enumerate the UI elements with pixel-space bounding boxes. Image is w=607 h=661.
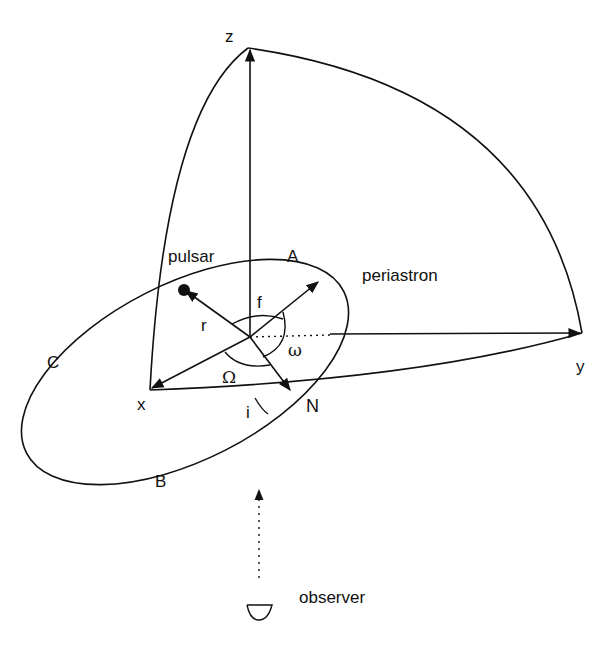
orbit-diagram: z y x pulsar A periastron C B N r f ω Ω … <box>0 0 607 661</box>
big-omega-label: Ω <box>222 367 236 387</box>
observer-label: observer <box>299 588 365 607</box>
orbit-diagram-svg: z y x pulsar A periastron C B N r f ω Ω … <box>0 0 607 661</box>
z-label: z <box>225 27 234 46</box>
pulsar-label: pulsar <box>168 247 215 266</box>
x-label: x <box>137 395 146 414</box>
angle-f-arc <box>232 315 283 324</box>
pulsar-dot <box>178 284 190 296</box>
arc-x-y <box>150 333 582 390</box>
point-b-label: B <box>155 472 166 491</box>
y-axis-dotted <box>250 335 330 337</box>
periastron-label: periastron <box>362 266 438 285</box>
radius-label: r <box>201 316 207 335</box>
y-axis <box>330 333 580 334</box>
point-a-label: A <box>287 247 299 266</box>
y-label: y <box>576 357 585 376</box>
arc-z-x <box>150 48 248 390</box>
angle-i-arc <box>255 398 268 414</box>
node-vector <box>250 337 290 390</box>
node-n-label: N <box>306 396 319 416</box>
true-anomaly-label: f <box>257 293 262 312</box>
arc-z-y <box>248 48 582 333</box>
radius-vector <box>186 291 250 337</box>
point-c-label: C <box>47 353 59 372</box>
eye-icon <box>247 605 272 620</box>
inclination-label: i <box>246 403 250 422</box>
omega-label: ω <box>288 340 302 360</box>
